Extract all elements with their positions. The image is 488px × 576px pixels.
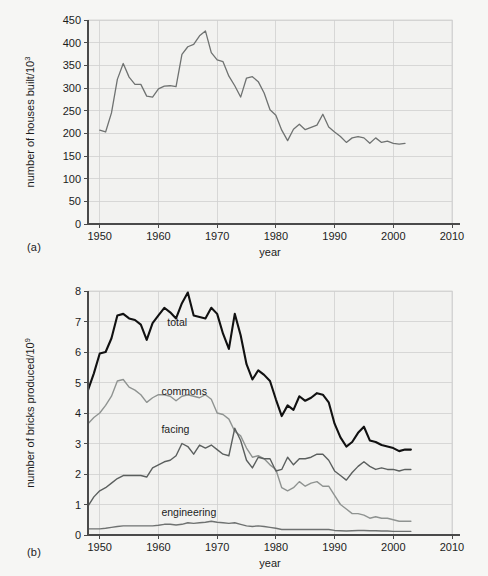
x-tick-label: 2000 — [381, 230, 405, 242]
x-tick-label: 1950 — [87, 230, 111, 242]
y-tick-label: 250 — [63, 105, 81, 117]
y-tick-label: 5 — [75, 377, 81, 389]
x-axis-title: year — [259, 246, 281, 258]
x-tick-label: 1970 — [205, 230, 229, 242]
y-tick-label: 0 — [75, 529, 81, 541]
x-tick-label: 2000 — [381, 541, 405, 553]
panel-b-label: (b) — [27, 546, 41, 558]
y-tick-label: 4 — [75, 407, 81, 419]
svg-text:number of houses built/103: number of houses built/103 — [23, 57, 37, 188]
panel-a-label: (a) — [27, 241, 41, 253]
x-tick-label: 1990 — [322, 230, 346, 242]
y-axis-title: number of bricks produced/109 — [23, 338, 37, 488]
svg-text:number of bricks produced/109: number of bricks produced/109 — [23, 338, 37, 488]
y-tick-label: 100 — [63, 173, 81, 185]
y-tick-label: 50 — [69, 195, 81, 207]
series-label-total: total — [167, 316, 187, 328]
y-tick-label: 0 — [75, 218, 81, 230]
figure-root: 0501001502002503003504004501950196019701… — [0, 0, 488, 576]
x-tick-label: 2010 — [440, 230, 464, 242]
x-tick-label: 1980 — [264, 541, 288, 553]
series-label-engineering: engineering — [161, 506, 216, 518]
y-tick-label: 400 — [63, 37, 81, 49]
houses-built-chart: 0501001502002503003504004501950196019701… — [0, 0, 488, 270]
y-tick-label: 1 — [75, 499, 81, 511]
chart-panel-a: 0501001502002503003504004501950196019701… — [0, 0, 488, 270]
y-tick-label: 450 — [63, 14, 81, 26]
y-tick-label: 300 — [63, 82, 81, 94]
series-label-commons: commons — [161, 385, 207, 397]
x-tick-label: 1960 — [146, 230, 170, 242]
y-tick-label: 350 — [63, 59, 81, 71]
y-axis-title: number of houses built/103 — [23, 57, 37, 188]
chart-panel-b: 0123456781950196019701980199020002010yea… — [0, 270, 488, 576]
x-tick-label: 1950 — [87, 541, 111, 553]
x-tick-label: 1970 — [205, 541, 229, 553]
y-tick-label: 2 — [75, 468, 81, 480]
bricks-produced-chart: 0123456781950196019701980199020002010yea… — [0, 270, 488, 576]
x-tick-label: 1960 — [146, 541, 170, 553]
y-tick-label: 8 — [75, 285, 81, 297]
x-axis-title: year — [259, 557, 281, 569]
x-tick-label: 1990 — [322, 541, 346, 553]
series-label-facing: facing — [161, 423, 189, 435]
y-tick-label: 150 — [63, 150, 81, 162]
y-tick-label: 200 — [63, 127, 81, 139]
y-tick-label: 7 — [75, 316, 81, 328]
x-tick-label: 2010 — [440, 541, 464, 553]
y-tick-label: 6 — [75, 346, 81, 358]
plot-background — [88, 20, 452, 224]
y-tick-label: 3 — [75, 438, 81, 450]
x-tick-label: 1980 — [264, 230, 288, 242]
